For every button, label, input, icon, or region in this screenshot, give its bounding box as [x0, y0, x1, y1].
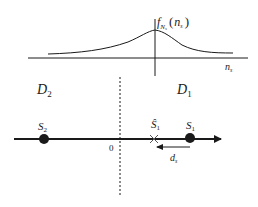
estimate-s1-label: Ŝ1: [151, 118, 161, 132]
point-s2-label: S2: [38, 120, 48, 134]
pdf-bell-curve: [48, 30, 233, 54]
pdf-plot: fNs(ns) ns: [28, 14, 248, 76]
diagram-canvas: fNs(ns) ns D2 D1 0 S2 S1 Ŝ1: [0, 0, 258, 207]
point-s1-label: S1: [186, 119, 196, 133]
displacement-label: ds: [170, 152, 178, 164]
region-label-d1: D1: [176, 82, 192, 99]
point-s1-dot: [185, 133, 195, 143]
origin-label: 0: [109, 143, 114, 153]
region-label-d2: D2: [36, 82, 52, 99]
point-s2-dot: [39, 134, 49, 144]
pdf-function-label: fNs(ns): [157, 14, 189, 31]
number-line: 0 S2 S1 Ŝ1 ds: [14, 118, 221, 164]
pdf-x-axis-label: ns: [225, 61, 233, 73]
